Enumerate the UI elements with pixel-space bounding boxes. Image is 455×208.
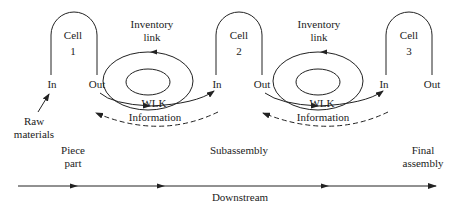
raw-materials: Raw materials [14,94,54,140]
cell-3-out: Out [424,78,441,90]
cell-1-number: 1 [70,45,76,57]
downstream-axis: Downstream [18,183,437,203]
link-1-wlk-label: WLK [141,97,166,109]
stage-labels: Piece part Subassembly Final assembly [61,144,444,169]
cell-3-number: 3 [406,45,412,57]
link-2-inner-loop [296,69,340,95]
cell-1-title: Cell [64,29,82,41]
link-2-loop-arrow-icon [320,50,327,55]
cell-1-in: In [47,78,57,90]
cell-1: Cell 1 In Out [47,12,105,90]
raw-materials-line1: Raw [24,115,44,127]
axis-arrow-3-icon [321,184,329,189]
cell-2-title: Cell [230,29,248,41]
stage-1-line2: part [64,157,81,169]
cell-3: Cell 3 In Out [379,12,440,90]
cell-3-in: In [379,78,389,90]
inventory-link-1: Inventory link WLK Information [96,18,218,126]
link-1-title-line1: Inventory [131,18,174,30]
downstream-label: Downstream [212,191,269,203]
axis-arrow-end-icon [428,183,437,189]
link-1-inner-loop [126,69,170,95]
cell-2-in: In [212,78,222,90]
link-2-info-label: Information [297,111,350,123]
stage-1-line1: Piece [61,144,85,156]
link-1-loop-arrow-icon [150,50,157,55]
link-2-wlk-label: WLK [309,97,334,109]
link-2-title-line1: Inventory [298,18,341,30]
cell-2: Cell 2 In Out [212,12,270,90]
axis-arrow-2-icon [157,184,165,189]
cell-2-number: 2 [236,45,242,57]
link-1-info-label: Information [129,111,182,123]
cell-flow-diagram: Cell 1 In Out Cell 2 In Out Cell 3 In Ou… [0,0,455,208]
cell-3-title: Cell [400,29,418,41]
raw-materials-line2: materials [14,128,54,140]
link-1-title-line2: link [143,31,161,43]
cell-2-out: Out [254,78,271,90]
stage-2-line1: Subassembly [210,144,269,156]
axis-arrow-1-icon [70,184,78,189]
stage-3-line1: Final [412,144,435,156]
raw-materials-arrow-icon [38,94,49,112]
stage-3-line2: assembly [403,157,444,169]
link-2-title-line2: link [310,31,328,43]
inventory-link-2: Inventory link WLK Information [263,18,388,126]
